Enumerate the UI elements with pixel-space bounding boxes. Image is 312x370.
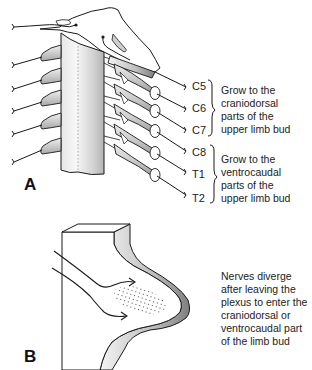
panel-a-label: A [24,175,36,195]
left-roots [41,45,61,154]
panel-b-illustration [52,224,190,370]
brace-upper [208,80,215,136]
panel-b-label: B [24,347,36,367]
nerve-label-c8: C8 [192,146,206,158]
caption-panel-b: Nerves diverge after leaving the plexus … [221,270,307,348]
nerve-label-c7: C7 [192,124,206,136]
brachial-plexus-figure: A B C5 C6 C7 C8 T1 T2 Grow to the cranio… [0,0,312,370]
caption-ventrocaudal: Grow to the ventrocaudal parts of the up… [221,153,290,205]
nerve-label-t2: T2 [192,192,205,204]
nerve-label-t1: T1 [192,168,205,180]
caption-craniodorsal: Grow to the craniodorsal parts of the up… [221,84,290,136]
nerve-label-c5: C5 [192,80,206,92]
nerve-label-c6: C6 [192,102,206,114]
brace-lower [210,145,217,203]
